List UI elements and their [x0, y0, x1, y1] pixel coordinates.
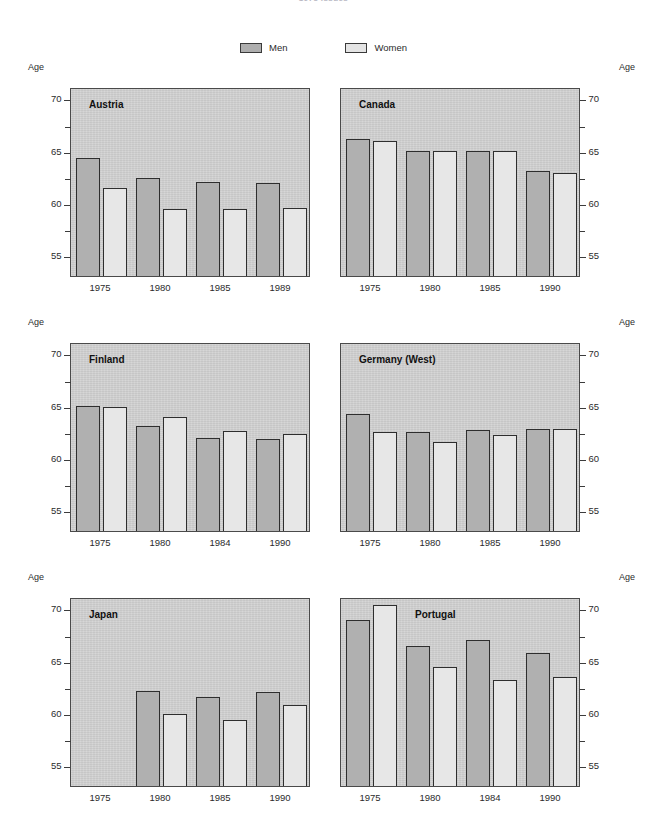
bar-men-1985 [466, 430, 490, 531]
bar-women-1990 [553, 173, 577, 276]
plot-area: Portugal70656055 [340, 598, 580, 787]
y-tick-label: 70 [51, 349, 62, 359]
x-tick-label: 1985 [479, 537, 500, 548]
x-tick-label: 1984 [209, 537, 230, 548]
y-tick-minor [65, 179, 71, 180]
y-tick-minor [579, 486, 585, 487]
y-tick-minor [65, 434, 71, 435]
y-tick-major [580, 715, 586, 716]
x-tick-label: 1975 [89, 792, 110, 803]
chart-panel-canada: AgeCanada706560551975198019851990 [330, 62, 640, 317]
y-tick-minor [65, 486, 71, 487]
bar-men-1980 [406, 432, 430, 531]
bar-men-1989 [256, 183, 280, 276]
legend-label-women: Women [374, 42, 407, 53]
panel-title: Canada [359, 99, 395, 110]
x-tick-label: 1975 [89, 282, 110, 293]
bar-women-1975 [103, 407, 127, 531]
bar-men-1990 [256, 692, 280, 786]
bar-women-1984 [223, 431, 247, 531]
y-tick-minor [579, 382, 585, 383]
x-tick-label: 1990 [539, 792, 560, 803]
y-tick-minor [579, 127, 585, 128]
legend-label-men: Men [269, 42, 287, 53]
bar-men-1975 [346, 620, 370, 786]
legend-swatch-men [240, 43, 262, 53]
y-tick-label: 70 [51, 604, 62, 614]
y-tick-label: 65 [589, 402, 600, 412]
bar-men-1990 [526, 653, 550, 786]
y-tick-major [64, 257, 70, 258]
chart-panel-portugal: AgePortugal706560551975198019841990 [330, 572, 640, 827]
x-tick-label: 1985 [209, 282, 230, 293]
x-tick-label: 1980 [149, 282, 170, 293]
bars-container [71, 599, 309, 786]
legend-entry-women: Women [345, 42, 407, 53]
y-tick-major [64, 512, 70, 513]
bars-container [341, 599, 579, 786]
bar-men-1975 [76, 406, 100, 531]
bar-women-1975 [373, 432, 397, 531]
y-tick-major [64, 610, 70, 611]
bar-men-1975 [346, 414, 370, 531]
y-tick-label: 60 [589, 709, 600, 719]
y-tick-label: 55 [589, 251, 600, 261]
bar-women-1980 [163, 209, 187, 276]
x-tick-label: 1984 [479, 792, 500, 803]
x-tick-label: 1975 [359, 792, 380, 803]
y-tick-label: 55 [51, 761, 62, 771]
y-tick-label: 60 [51, 709, 62, 719]
y-tick-major [64, 408, 70, 409]
plot-area: Finland70656055 [70, 343, 310, 532]
y-tick-major [64, 355, 70, 356]
y-tick-label: 65 [589, 147, 600, 157]
x-tick-label: 1975 [359, 282, 380, 293]
bar-men-1980 [406, 646, 430, 786]
y-tick-label: 55 [589, 761, 600, 771]
y-tick-label: 70 [589, 604, 600, 614]
bar-men-1985 [466, 151, 490, 276]
x-tick-label: 1990 [539, 282, 560, 293]
bars-container [71, 344, 309, 531]
y-tick-label: 70 [589, 94, 600, 104]
y-tick-minor [579, 689, 585, 690]
y-tick-major [64, 153, 70, 154]
bars-container [71, 89, 309, 276]
axis-caption-age: Age [619, 62, 635, 72]
bar-men-1980 [136, 691, 160, 786]
bars-container [341, 344, 579, 531]
bar-women-1980 [163, 417, 187, 531]
panel-title: Finland [89, 354, 125, 365]
chart-panel-germany-west: AgeGermany (West)70656055197519801985199… [330, 317, 640, 572]
bar-men-1980 [136, 178, 160, 276]
axis-caption-age: Age [619, 572, 635, 582]
panel-grid: AgeAustria706560551975198019851989AgeCan… [0, 62, 647, 827]
bar-men-1984 [466, 640, 490, 786]
y-tick-major [64, 100, 70, 101]
legend-entry-men: Men [240, 42, 287, 53]
axis-caption-age: Age [28, 62, 44, 72]
y-tick-major [580, 355, 586, 356]
y-tick-minor [579, 231, 585, 232]
bar-women-1990 [283, 705, 307, 786]
bar-women-1990 [553, 429, 577, 531]
x-tick-label: 1980 [149, 792, 170, 803]
panel-title: Portugal [415, 609, 456, 620]
bar-women-1980 [433, 667, 457, 786]
chart-page: 1975 Issues Men Women AgeAustria70656055… [0, 0, 647, 840]
y-tick-label: 55 [51, 251, 62, 261]
x-tick-label: 1990 [539, 537, 560, 548]
y-tick-major [580, 767, 586, 768]
axis-caption-age: Age [28, 317, 44, 327]
y-tick-label: 60 [51, 199, 62, 209]
chart-panel-finland: AgeFinland706560551975198019841990 [8, 317, 318, 572]
plot-area: Austria70656055 [70, 88, 310, 277]
y-tick-label: 60 [589, 199, 600, 209]
plot-area: Germany (West)70656055 [340, 343, 580, 532]
y-tick-label: 65 [51, 147, 62, 157]
plot-area: Canada70656055 [340, 88, 580, 277]
y-tick-minor [579, 434, 585, 435]
y-tick-label: 65 [51, 657, 62, 667]
y-tick-label: 55 [589, 506, 600, 516]
axis-caption-age: Age [28, 572, 44, 582]
